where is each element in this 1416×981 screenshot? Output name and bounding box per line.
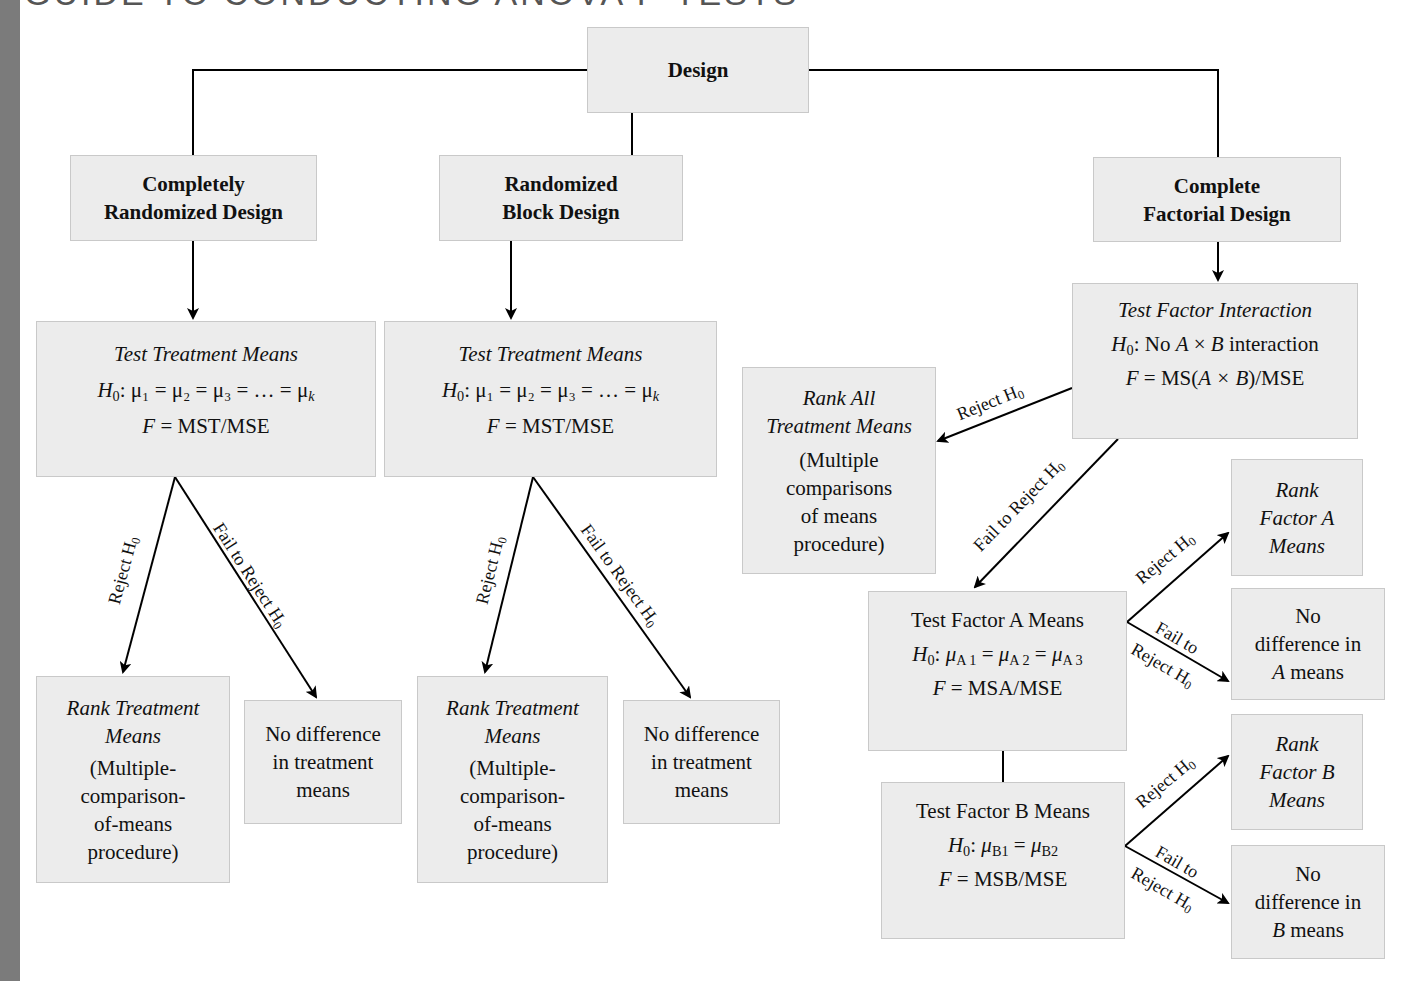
- nodiff-b-line3: B means: [1272, 916, 1344, 944]
- rbd-label-line1: Randomized: [504, 170, 617, 198]
- crd-rank-line5: of-means: [94, 810, 172, 838]
- rank-all-line2: Treatment Means: [766, 412, 912, 440]
- crd-rank-treatment-means-node: Rank Treatment Means (Multiple- comparis…: [36, 676, 230, 883]
- rbd-test-f-statistic: F = MST/MSE: [487, 412, 614, 440]
- interaction-test-title: Test Factor Interaction: [1118, 296, 1312, 324]
- nodiff-a-line2: difference in: [1255, 630, 1361, 658]
- rbd-rank-line5: of-means: [473, 810, 551, 838]
- nodiff-a-line1: No: [1295, 602, 1321, 630]
- crd-nodiff-line1: No difference: [265, 720, 381, 748]
- crd-test-title: Test Treatment Means: [114, 340, 298, 368]
- crd-test-f-statistic: F = MST/MSE: [142, 412, 269, 440]
- rbd-rank-treatment-means-node: Rank Treatment Means (Multiple- comparis…: [417, 676, 608, 883]
- rbd-rank-line4: comparison-: [460, 782, 565, 810]
- rank-a-line1: Rank: [1275, 476, 1318, 504]
- rank-all-line3: (Multiple: [799, 446, 878, 474]
- completely-randomized-design-node: Completely Randomized Design: [70, 155, 317, 241]
- cfd-label-line1: Complete: [1174, 172, 1260, 200]
- rbd-nodiff-line3: means: [675, 776, 729, 804]
- rank-b-line1: Rank: [1275, 730, 1318, 758]
- design-label: Design: [668, 56, 729, 84]
- factor-b-test-f-statistic: F = MSB/MSE: [939, 865, 1068, 893]
- rank-a-line2: Factor A: [1260, 504, 1335, 532]
- rank-all-line4: comparisons: [786, 474, 892, 502]
- no-difference-a-means-node: No difference in A means: [1231, 588, 1385, 700]
- rank-b-line2: Factor B: [1259, 758, 1334, 786]
- rbd-test-title: Test Treatment Means: [459, 340, 643, 368]
- rbd-test-h0: H0: μ₁ = μ₂ = μ₃ = … = μk: [442, 376, 659, 404]
- nodiff-b-line1: No: [1295, 860, 1321, 888]
- crd-label-line1: Completely: [142, 170, 245, 198]
- rbd-test-treatment-means-node: Test Treatment Means H0: μ₁ = μ₂ = μ₃ = …: [384, 321, 717, 477]
- factor-a-test-f-statistic: F = MSA/MSE: [933, 674, 1063, 702]
- crd-rank-line2: Means: [105, 722, 161, 750]
- crd-nodiff-line3: means: [296, 776, 350, 804]
- rbd-rank-line2: Means: [485, 722, 541, 750]
- randomized-block-design-node: Randomized Block Design: [439, 155, 683, 241]
- rbd-rank-line1: Rank Treatment: [446, 694, 579, 722]
- design-node: Design: [587, 27, 809, 113]
- crd-rank-line3: (Multiple-: [90, 754, 176, 782]
- crd-label-line2: Randomized Design: [104, 198, 283, 226]
- rbd-no-difference-node: No difference in treatment means: [623, 700, 780, 824]
- factor-a-test-h0: H0: μA 1 = μA 2 = μA 3: [912, 640, 1082, 668]
- crd-rank-line4: comparison-: [81, 782, 186, 810]
- rbd-nodiff-line2: in treatment: [651, 748, 752, 776]
- rank-all-line6: procedure): [794, 530, 885, 558]
- test-factor-interaction-node: Test Factor Interaction H0: No A × B int…: [1072, 283, 1358, 439]
- rbd-rank-line3: (Multiple-: [469, 754, 555, 782]
- interaction-test-f-statistic: F = MS(A × B)/MSE: [1126, 364, 1305, 392]
- factor-b-test-h0: H0: μB1 = μB2: [948, 831, 1058, 859]
- factor-a-test-title: Test Factor A Means: [911, 606, 1084, 634]
- rank-factor-a-means-node: Rank Factor A Means: [1231, 459, 1363, 576]
- rank-a-line3: Means: [1269, 532, 1325, 560]
- crd-test-treatment-means-node: Test Treatment Means H0: μ₁ = μ₂ = μ₃ = …: [36, 321, 376, 477]
- rank-all-line5: of means: [801, 502, 877, 530]
- rank-factor-b-means-node: Rank Factor B Means: [1231, 714, 1363, 830]
- rbd-label-line2: Block Design: [502, 198, 619, 226]
- crd-no-difference-node: No difference in treatment means: [244, 700, 402, 824]
- crd-nodiff-line2: in treatment: [273, 748, 374, 776]
- rbd-nodiff-line1: No difference: [644, 720, 760, 748]
- nodiff-b-line2: difference in: [1255, 888, 1361, 916]
- rank-b-line3: Means: [1269, 786, 1325, 814]
- factor-b-test-title: Test Factor B Means: [916, 797, 1090, 825]
- no-difference-b-means-node: No difference in B means: [1231, 845, 1385, 959]
- test-factor-b-means-node: Test Factor B Means H0: μB1 = μB2 F = MS…: [881, 782, 1125, 939]
- nodiff-a-line3: A means: [1272, 658, 1344, 686]
- interaction-test-h0: H0: No A × B interaction: [1111, 330, 1318, 358]
- test-factor-a-means-node: Test Factor A Means H0: μA 1 = μA 2 = μA…: [868, 591, 1127, 751]
- cfd-label-line2: Factorial Design: [1143, 200, 1291, 228]
- complete-factorial-design-node: Complete Factorial Design: [1093, 157, 1341, 242]
- crd-test-h0: H0: μ₁ = μ₂ = μ₃ = … = μk: [97, 376, 314, 404]
- crd-rank-line1: Rank Treatment: [67, 694, 200, 722]
- crd-rank-line6: procedure): [88, 838, 179, 866]
- rbd-rank-line6: procedure): [467, 838, 558, 866]
- rank-all-line1: Rank All: [803, 384, 876, 412]
- rank-all-treatment-means-node: Rank All Treatment Means (Multiple compa…: [742, 367, 936, 574]
